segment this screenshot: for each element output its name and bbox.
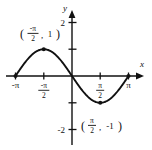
annotation-min-open-paren: ( [81,119,85,133]
annotation-min-point: ( π 2 , -1 ) [81,116,122,135]
point-max [42,47,46,51]
annotation-min-denominator: 2 [90,126,94,135]
point-neg-pi [14,74,18,78]
x-axis-label: x [139,59,144,69]
annotation-max-denominator: 2 [31,34,35,43]
y-axis-arrowhead [69,10,76,18]
axes-group [6,10,144,145]
annotation-min-yvalue: -1 [106,121,114,131]
y-tick-label-neg-2: -2 [58,125,66,135]
graph-figure: x y 2 -2 -π -π 2 π 2 π ( -π 2 , 1 [0,0,152,150]
annotation-min-comma: , [99,122,101,132]
annotation-max-close-paren: ) [56,27,60,41]
annotation-max-numerator: -π [30,24,36,33]
x-tick-label-neg-pi-over-2-denominator: 2 [42,91,46,100]
annotation-max-open-paren: ( [20,27,24,41]
annotation-max-yvalue: 1 [48,29,53,39]
x-axis-arrowhead [136,73,144,80]
annotation-max-point: ( -π 2 , 1 ) [20,24,60,43]
annotation-max-comma: , [41,30,43,40]
point-min [98,101,102,105]
y-axis-label: y [62,3,67,13]
point-pi [127,74,131,78]
x-tick-label-pi-over-2: π 2 [96,81,104,100]
coordinate-plane-svg: x y 2 -2 -π -π 2 π 2 π ( -π 2 , 1 [0,0,152,150]
annotation-min-numerator: π [90,116,94,125]
annotation-min-close-paren: ) [118,119,122,133]
x-tick-label-neg-pi-over-2: -π 2 [38,81,49,100]
x-tick-label-pi-over-2-numerator: π [98,81,102,90]
y-tick-label-2: 2 [61,18,66,28]
x-tick-label-neg-pi: -π [12,80,20,90]
x-tick-label-pi-over-2-denominator: 2 [98,91,102,100]
x-tick-label-pi: π [126,80,131,90]
x-tick-label-neg-pi-over-2-numerator: -π [41,81,47,90]
